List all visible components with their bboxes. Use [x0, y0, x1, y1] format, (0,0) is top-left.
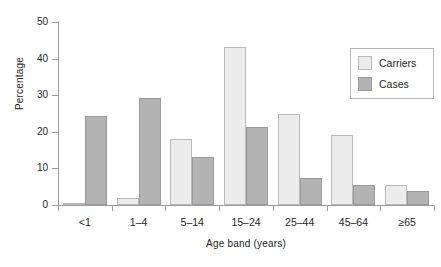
legend-swatch-cases [358, 77, 372, 91]
y-tick-label-30: 30 [37, 89, 48, 100]
x-tick-label-6: ≥65 [380, 216, 434, 228]
legend-item-carriers: Carriers [358, 55, 416, 71]
x-tick-label-0: <1 [58, 216, 112, 228]
legend-label-carriers: Carriers [379, 57, 416, 69]
y-tick-label-0: 0 [42, 199, 48, 210]
x-tick-3 [273, 205, 274, 211]
x-axis-title: Age band (years) [58, 238, 434, 249]
y-tick-label-50: 50 [37, 16, 48, 27]
y-tick-label-20: 20 [37, 126, 48, 137]
y-axis-title: Percentage [14, 29, 25, 139]
x-tick-start [58, 205, 59, 211]
bar-cases-5 [353, 185, 375, 205]
y-tick-label-10: 10 [37, 162, 48, 173]
x-tick-0 [112, 205, 113, 211]
bar-group [58, 22, 112, 205]
legend-swatch-carriers [358, 56, 372, 70]
bar-cases-1 [139, 98, 161, 205]
y-tick-label-40: 40 [37, 53, 48, 64]
bar-carriers-2 [170, 139, 192, 205]
legend-label-cases: Cases [379, 78, 409, 90]
x-tick-6 [434, 205, 435, 211]
bar-group [219, 22, 273, 205]
bar-cases-4 [300, 178, 322, 205]
x-tick-2 [219, 205, 220, 211]
chart-legend: Carriers Cases [350, 48, 434, 99]
bar-carriers-1 [117, 198, 139, 205]
x-axis-ticks: <11–45–1415–2425–4445–64≥65 [58, 205, 434, 235]
bar-cases-0 [85, 116, 107, 205]
x-tick-label-3: 15–24 [219, 216, 273, 228]
x-tick-label-5: 45–64 [326, 216, 380, 228]
bar-carriers-3 [224, 47, 246, 205]
legend-item-cases: Cases [358, 76, 409, 92]
bar-chart-figure: Percentage 01020304050 <11–45–1415–2425–… [0, 0, 441, 267]
bar-group [112, 22, 166, 205]
x-tick-label-4: 25–44 [273, 216, 327, 228]
bar-cases-3 [246, 127, 268, 205]
x-tick-label-1: 1–4 [112, 216, 166, 228]
x-tick-1 [165, 205, 166, 211]
x-tick-5 [380, 205, 381, 211]
bar-group [165, 22, 219, 205]
bar-cases-2 [192, 157, 214, 205]
x-tick-label-2: 5–14 [165, 216, 219, 228]
bar-carriers-5 [331, 135, 353, 205]
bar-carriers-6 [385, 185, 407, 205]
bar-cases-6 [407, 191, 429, 205]
bar-group [273, 22, 327, 205]
bar-carriers-4 [278, 114, 300, 205]
x-tick-4 [327, 205, 328, 211]
